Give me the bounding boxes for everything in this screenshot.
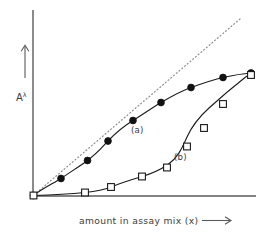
initial-slope-tangent-line — [34, 19, 240, 195]
y-axis-label: Aλ — [16, 91, 27, 103]
curve-b-point-7 — [220, 101, 227, 108]
curve-a-point-3 — [105, 138, 112, 145]
curve-b-point-0 — [30, 192, 37, 199]
y-axis-arrow-icon — [21, 45, 29, 78]
x-axis-label: amount in assay mix (x) — [79, 215, 198, 226]
curve-a-point-2 — [84, 157, 91, 164]
curve-b-point-5 — [184, 143, 191, 150]
curve-a-point-7 — [220, 74, 227, 81]
curve-b-point-4 — [164, 164, 171, 171]
x-axis-arrow-icon — [202, 217, 231, 224]
curve-a-point-6 — [188, 84, 195, 91]
curve-a-point-5 — [158, 99, 165, 106]
curve-b-label: (b) — [174, 152, 187, 162]
curve-b-point-8 — [248, 72, 255, 79]
plot-svg: Aλ (a) — [0, 0, 267, 241]
curve-b-point-6 — [201, 125, 208, 132]
curve-b-point-3 — [139, 173, 146, 180]
curve-a-point-4 — [130, 117, 137, 124]
chart-figure: Aλ (a) — [0, 0, 267, 241]
curve-a-point-1 — [58, 175, 65, 182]
curve-b-point-2 — [108, 184, 115, 191]
curve-b-point-1 — [82, 189, 89, 196]
y-axis-label-superscript: λ — [23, 91, 27, 99]
curve-a-label: (a) — [131, 125, 144, 135]
